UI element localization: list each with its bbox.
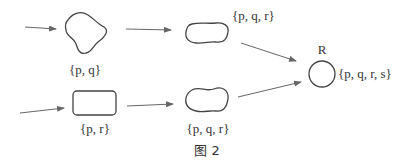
node-pqr-top-label: {p, q, r} [232,8,275,23]
input-arrow-bottom [20,108,64,113]
node-pqr-bottom-label: {p, q, r} [187,121,230,136]
arrow-pqr-top-to-R [241,43,296,61]
arrow-pr-to-pqr [127,104,173,106]
node-pr-rect [73,91,116,115]
arrow-pq-to-pqr [126,29,171,30]
node-R-label: {p, q, r, s} [338,66,392,81]
arrow-pqr-bottom-to-R [238,82,301,97]
node-pq-label: {p, q} [69,62,101,77]
node-pq-blob [66,13,107,54]
figure-caption: 图 2 [194,143,219,158]
node-R-circle [309,61,335,87]
node-R-name: R [318,42,327,57]
input-arrow-top [25,27,56,29]
node-pqr-bottom-blob [186,88,228,112]
node-pqr-top-blob [186,23,228,43]
diagram-canvas: {p, q} {p, q, r} R {p, q, r, s} {p, r} {… [0,0,403,166]
node-pr-label: {p, r} [80,121,110,136]
